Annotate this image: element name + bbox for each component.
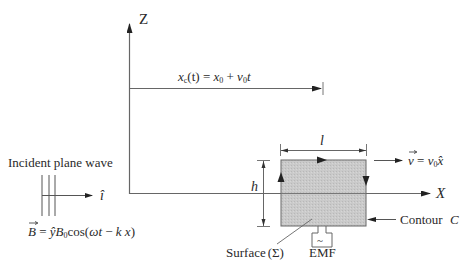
z-axis: Z — [130, 11, 149, 194]
z-axis-label: Z — [139, 11, 148, 27]
velocity-vector: v = v0x̂ — [374, 151, 443, 170]
height-label: h — [251, 179, 258, 194]
propagation-direction-label: î — [100, 188, 105, 203]
faraday-moving-loop-diagram: Z X xc(t) = x0 + v0t Incident plane wave… — [0, 0, 464, 270]
contour-label: Contour C — [400, 212, 459, 227]
position-equation: xc(t) = x0 + v0t — [177, 69, 251, 85]
emf-label: EMF — [309, 245, 336, 260]
velocity-equation: v = v0x̂ — [408, 153, 443, 169]
x-axis-label: X — [435, 185, 446, 201]
contour-callout: Contour C — [367, 212, 459, 227]
surface-label: Surface(Σ) — [226, 245, 284, 260]
magnetic-field-equation: B = ŷB0cos(ωt − k x) — [28, 224, 135, 240]
incident-plane-wave: Incident plane wave î B = ŷB0cos(ωt − k … — [8, 155, 135, 240]
width-label: l — [320, 133, 324, 148]
position-arrow: xc(t) = x0 + v0t — [130, 69, 324, 95]
incident-wave-title: Incident plane wave — [8, 155, 113, 170]
width-dimension: l — [281, 133, 367, 156]
